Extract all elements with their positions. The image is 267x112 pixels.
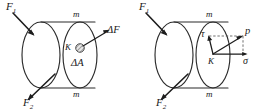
- left-force-f2-shaft: [29, 74, 55, 99]
- shear-stress-tau-label: τ: [201, 29, 205, 39]
- normal-stress-sigma-label: σ: [243, 56, 248, 66]
- delta-force-label: ΔF: [107, 25, 120, 36]
- right-cylinder-diagram: [146, 13, 248, 101]
- left-section-bottom-label: m: [73, 90, 80, 99]
- left-delta-area-disc: [76, 44, 85, 53]
- left-force-f1-label: F1: [6, 1, 16, 15]
- left-cylinder-diagram: [13, 13, 110, 101]
- right-force-f2-shaft: [162, 74, 188, 99]
- left-cylinder-back-cap: [22, 22, 60, 88]
- right-point-k-label: K: [208, 57, 214, 66]
- left-section-top-label: m: [73, 10, 80, 19]
- left-cross-section-ellipse: [63, 22, 97, 88]
- figure-drawing: [0, 0, 267, 112]
- right-section-top-label: m: [206, 10, 213, 19]
- left-point-k-label: K: [65, 43, 71, 52]
- right-force-f2-label: F2: [156, 97, 166, 111]
- total-stress-p-shaft: [213, 37, 241, 54]
- figure-container: F1 F2 m m K ΔF ΔA F1 F2 m m K p τ σ: [0, 0, 267, 112]
- total-stress-p-label: p: [245, 26, 250, 37]
- delta-area-label: ΔA: [71, 58, 84, 69]
- right-force-f1-label: F1: [139, 1, 149, 15]
- right-section-bottom-label: m: [206, 90, 213, 99]
- right-cylinder-back-cap: [155, 22, 193, 88]
- left-force-f2-label: F2: [23, 97, 33, 111]
